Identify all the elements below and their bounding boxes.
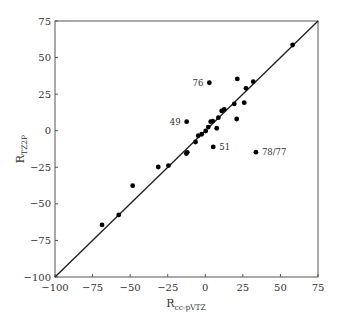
y-tick-label: −75 bbox=[30, 235, 51, 246]
y-tick-label: 50 bbox=[38, 52, 51, 63]
point-annotation: 78/77 bbox=[262, 147, 287, 157]
data-point bbox=[100, 223, 105, 228]
x-tick-label: 50 bbox=[274, 282, 287, 293]
x-tick-label: −50 bbox=[120, 282, 141, 293]
x-tick-label: 0 bbox=[202, 282, 208, 293]
point-annotation: 49 bbox=[170, 117, 181, 127]
data-point bbox=[185, 150, 190, 155]
x-tick-labels: −100−75−50−250255075 bbox=[41, 282, 324, 293]
data-point bbox=[193, 140, 198, 145]
y-tick-label: −50 bbox=[30, 198, 51, 209]
data-point bbox=[254, 150, 259, 155]
data-point bbox=[210, 119, 215, 124]
y-tick-label: 0 bbox=[45, 125, 51, 136]
data-points bbox=[100, 43, 295, 228]
point-annotation: 76 bbox=[193, 78, 204, 88]
data-point bbox=[216, 115, 221, 120]
y-tick-label: 25 bbox=[38, 89, 51, 100]
point-annotations: 49765178/77 bbox=[170, 78, 287, 157]
x-tick-label: −75 bbox=[82, 282, 103, 293]
y-tick-label: −100 bbox=[24, 272, 51, 283]
data-point bbox=[156, 165, 161, 170]
x-tick-label: −25 bbox=[157, 282, 178, 293]
data-point bbox=[222, 107, 227, 112]
data-point bbox=[235, 77, 240, 82]
x-tick-label: −100 bbox=[41, 282, 68, 293]
x-axis-label: Rcc-pVTZ bbox=[166, 297, 206, 312]
data-point bbox=[242, 100, 247, 105]
data-point bbox=[199, 132, 204, 137]
scatter-chart: −100−75−50−250255075 −100−75−50−25025507… bbox=[0, 0, 342, 325]
data-point bbox=[290, 43, 295, 48]
data-point bbox=[184, 119, 189, 124]
y-axis-label: RTZ2P bbox=[14, 135, 29, 163]
x-tick-label: 75 bbox=[312, 282, 325, 293]
data-point bbox=[234, 117, 239, 122]
data-point bbox=[211, 145, 216, 150]
data-point bbox=[232, 102, 237, 107]
data-point bbox=[214, 126, 219, 131]
data-point bbox=[244, 86, 249, 91]
y-tick-label: 75 bbox=[38, 16, 51, 27]
data-point bbox=[207, 80, 212, 85]
data-point bbox=[166, 163, 171, 168]
point-annotation: 51 bbox=[219, 142, 230, 152]
y-tick-label: −25 bbox=[30, 162, 51, 173]
data-point bbox=[130, 183, 135, 188]
data-point bbox=[251, 79, 256, 84]
data-point bbox=[116, 213, 121, 218]
data-point bbox=[203, 129, 208, 134]
x-tick-label: 25 bbox=[236, 282, 249, 293]
data-point bbox=[206, 125, 211, 130]
